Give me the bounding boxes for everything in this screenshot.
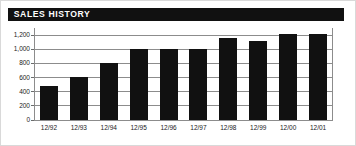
x-axis-tick-label: 12/01 xyxy=(310,124,326,131)
y-axis-tick-label: 1,200 xyxy=(14,32,30,39)
x-axis-tick-label: 12/00 xyxy=(280,124,296,131)
y-axis-tick-mark xyxy=(31,120,34,121)
y-axis-tick-label: 200 xyxy=(19,103,30,110)
bar xyxy=(70,77,88,120)
bar xyxy=(160,49,178,120)
x-axis-tick-label: 12/96 xyxy=(160,124,176,131)
y-axis-tick-label: 1,000 xyxy=(14,46,30,53)
x-axis-tick-label: 12/98 xyxy=(220,124,236,131)
y-axis-tick-label: 800 xyxy=(19,60,30,67)
chart-figure: SALES HISTORY 02004006008001,0001,200 12… xyxy=(0,0,356,146)
y-axis-tick-mark xyxy=(31,105,34,106)
x-axis-tick-label: 12/99 xyxy=(250,124,266,131)
bar xyxy=(249,41,267,120)
bar xyxy=(279,34,297,120)
bar xyxy=(219,38,237,120)
y-axis-tick-label: 400 xyxy=(19,88,30,95)
chart-title-bar: SALES HISTORY xyxy=(8,8,344,21)
bar xyxy=(100,63,118,120)
y-axis-tick-mark xyxy=(31,35,34,36)
page-title: SALES HISTORY xyxy=(8,8,90,21)
y-axis-tick-mark xyxy=(31,77,34,78)
x-axis-tick-label: 12/93 xyxy=(71,124,87,131)
bar xyxy=(130,49,148,120)
x-axis-tick-label: 12/92 xyxy=(41,124,57,131)
y-axis-tick-mark xyxy=(31,49,34,50)
x-axis-tick-label: 12/95 xyxy=(131,124,147,131)
bar xyxy=(309,34,327,120)
y-axis-tick-mark xyxy=(31,91,34,92)
bar xyxy=(189,49,207,120)
plot-area: 02004006008001,0001,200 12/9212/9312/941… xyxy=(34,28,333,120)
y-axis-tick-mark xyxy=(31,63,34,64)
y-axis-tick-label: 600 xyxy=(19,74,30,81)
x-axis-tick-label: 12/97 xyxy=(190,124,206,131)
bar xyxy=(40,86,58,120)
x-axis-tick-label: 12/94 xyxy=(101,124,117,131)
y-axis-tick-label: 0 xyxy=(26,117,30,124)
